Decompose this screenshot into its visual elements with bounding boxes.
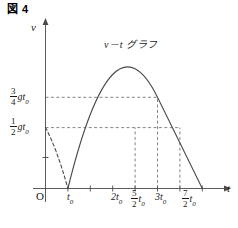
xtick-label-3t0: 3t0 <box>155 192 166 205</box>
ytick-unit-1: gt0 <box>17 122 29 135</box>
axis-label-v: v <box>31 22 36 33</box>
ytick-label-three-quarters: 3 4 gt0 <box>10 88 29 108</box>
ytick-label-one-half: 1 2 gt0 <box>10 118 29 138</box>
fraction-five-halves: 5 2 <box>131 189 138 209</box>
ytick-unit-0: gt0 <box>17 92 29 105</box>
v-axis <box>43 18 49 202</box>
velocity-curve-dashed <box>46 128 68 189</box>
xtick-label-7-2t0: 7 2 t0 <box>182 190 196 210</box>
origin-label: O <box>36 191 44 202</box>
xtick-unit-4: t0 <box>189 194 196 207</box>
chart-title: v－t グラフ <box>104 40 158 50</box>
xtick-label-2t0: 2t0 <box>111 192 122 205</box>
xtick-label-t0: t0 <box>67 192 73 205</box>
xtick-unit-2: t0 <box>138 194 145 207</box>
fraction-seven-halves: 7 2 <box>182 189 189 209</box>
figure-container: 図 4 <box>0 0 238 228</box>
fraction-three-quarters: 3 4 <box>10 87 17 107</box>
fraction-one-half: 1 2 <box>10 117 17 137</box>
xtick-label-5-2t0: 5 2 t0 <box>131 190 145 210</box>
axis-label-t: t <box>227 183 230 194</box>
